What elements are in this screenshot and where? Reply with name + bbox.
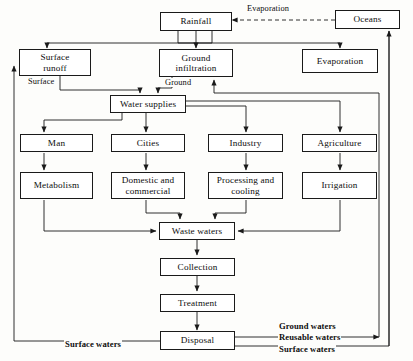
edge-label-ground-waters: Ground waters bbox=[278, 322, 337, 331]
node-surface-runoff-label-line2: runoff bbox=[41, 63, 69, 74]
node-disposal-label: Disposal bbox=[179, 335, 216, 346]
node-collection-label: Collection bbox=[176, 262, 220, 273]
node-ground-infiltration[interactable]: Ground infiltration bbox=[159, 49, 233, 77]
node-industry-label: Industry bbox=[228, 138, 264, 149]
edge-label-evaporation: Evaporation bbox=[246, 4, 290, 13]
node-evaporation[interactable]: Evaporation bbox=[302, 49, 378, 73]
node-processing-and-cooling[interactable]: Processing and cooling bbox=[208, 172, 283, 199]
node-surface-runoff[interactable]: Surface runoff bbox=[19, 49, 91, 76]
node-cities[interactable]: Cities bbox=[111, 134, 185, 152]
node-industry[interactable]: Industry bbox=[208, 134, 283, 152]
edge-domestic-to-waste bbox=[146, 200, 180, 219]
water-cycle-diagram: Rainfall Oceans Surface runoff Ground in… bbox=[0, 0, 413, 361]
node-metabolism-label: Metabolism bbox=[32, 180, 81, 191]
node-irrigation[interactable]: Irrigation bbox=[302, 172, 377, 199]
node-surface-runoff-label-line1: Surface bbox=[38, 52, 71, 63]
node-ground-infiltration-label-line2: infiltration bbox=[173, 63, 218, 74]
node-water-supplies[interactable]: Water supplies bbox=[110, 95, 186, 113]
node-ground-infiltration-label-line1: Ground bbox=[180, 53, 213, 64]
edge-supplies-to-man bbox=[44, 113, 122, 132]
edge-label-surface: Surface bbox=[27, 77, 55, 86]
node-processing-and-cooling-label-line1: Processing and bbox=[215, 175, 276, 186]
node-irrigation-label: Irrigation bbox=[319, 180, 359, 191]
node-collection[interactable]: Collection bbox=[160, 258, 235, 276]
node-rainfall-label: Rainfall bbox=[179, 16, 214, 27]
edge-return-to-ground-infiltration bbox=[214, 80, 379, 93]
node-metabolism[interactable]: Metabolism bbox=[20, 172, 93, 199]
edge-rainfall-bus-left bbox=[47, 31, 212, 48]
edge-supplies-to-industry bbox=[186, 106, 246, 132]
node-rainfall[interactable]: Rainfall bbox=[160, 12, 232, 31]
node-treatment[interactable]: Treatment bbox=[160, 294, 235, 312]
node-waste-waters-label: Waste waters bbox=[170, 226, 224, 237]
node-water-supplies-label: Water supplies bbox=[118, 99, 178, 110]
edge-label-reusable-waters: Reusable waters bbox=[278, 333, 341, 342]
node-treatment-label: Treatment bbox=[176, 298, 219, 309]
node-domestic-and-commercial-label-line1: Domestic and bbox=[120, 175, 177, 186]
edge-label-surface-waters-right: Surface waters bbox=[278, 345, 336, 354]
node-agriculture-label: Agriculture bbox=[316, 138, 364, 149]
node-domestic-and-commercial-label-line2: commercial bbox=[124, 186, 173, 197]
node-oceans-label: Oceans bbox=[352, 14, 384, 25]
node-man[interactable]: Man bbox=[20, 134, 93, 152]
node-disposal[interactable]: Disposal bbox=[160, 331, 235, 350]
node-evaporation-label: Evaporation bbox=[315, 56, 366, 67]
edge-label-ground: Ground bbox=[164, 78, 192, 87]
edge-irrigation-to-waste bbox=[238, 200, 340, 231]
edge-metabolism-to-waste bbox=[44, 200, 156, 231]
node-man-label: Man bbox=[46, 138, 67, 149]
edge-processing-to-waste bbox=[215, 200, 246, 219]
node-waste-waters[interactable]: Waste waters bbox=[159, 222, 235, 240]
node-domestic-and-commercial[interactable]: Domestic and commercial bbox=[111, 172, 185, 199]
edge-surface-runoff-down bbox=[60, 76, 140, 93]
edge-label-surface-waters-left: Surface waters bbox=[64, 340, 122, 349]
edge-rainfall-bus bbox=[178, 31, 340, 48]
node-oceans[interactable]: Oceans bbox=[335, 10, 400, 29]
node-processing-and-cooling-label-line2: cooling bbox=[229, 186, 262, 197]
node-cities-label: Cities bbox=[135, 138, 161, 149]
node-agriculture[interactable]: Agriculture bbox=[302, 134, 377, 152]
